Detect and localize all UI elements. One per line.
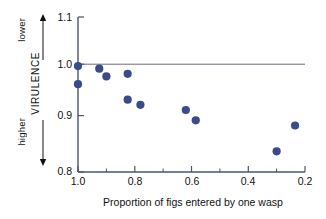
x-tick-label-1.0: 1.0 xyxy=(63,175,93,187)
data-point xyxy=(136,101,144,109)
data-point-group xyxy=(74,62,299,155)
x-axis-title: Proportion of figs entered by one wasp xyxy=(60,196,326,208)
x-tick-label-0.6: 0.6 xyxy=(177,175,207,187)
data-point xyxy=(291,121,299,129)
data-point xyxy=(182,106,190,114)
x-tick-label-0.2: 0.2 xyxy=(290,175,320,187)
x-tick-label-0.4: 0.4 xyxy=(233,175,263,187)
y-tick-label-1.0: 1.0 xyxy=(46,58,72,70)
data-point xyxy=(74,80,82,88)
data-point xyxy=(124,96,132,104)
data-point xyxy=(102,72,110,80)
y-tick-label-1.1: 1.1 xyxy=(46,11,72,23)
y-axis-ticks xyxy=(78,17,84,172)
data-point xyxy=(273,147,281,155)
y-tick-label-0.9: 0.9 xyxy=(46,109,72,121)
x-tick-label-0.8: 0.8 xyxy=(120,175,150,187)
data-point xyxy=(124,70,132,78)
data-point xyxy=(74,62,82,70)
x-axis-major-ticks xyxy=(78,166,305,172)
data-point xyxy=(192,116,200,124)
data-point xyxy=(95,65,103,73)
scatter-plot-figure: lower higher VIRULENCE xyxy=(0,0,326,219)
